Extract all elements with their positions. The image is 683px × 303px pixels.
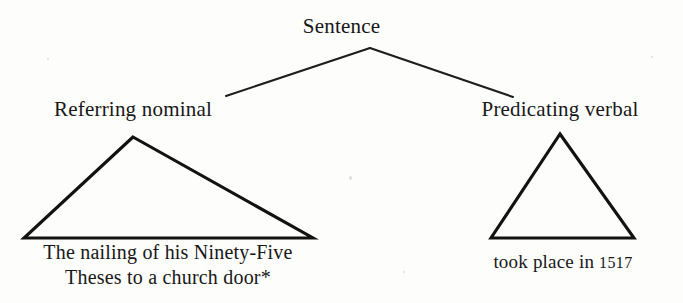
left-terminal-text: The nailing of his Ninety-Five Theses to… xyxy=(0,240,336,290)
left-triangle xyxy=(24,137,313,238)
left-terminal-line-1: The nailing of his Ninety-Five xyxy=(0,240,336,265)
right-terminal-phrase: took place in xyxy=(493,251,599,272)
right-terminal-year: 1517 xyxy=(599,254,633,271)
right-triangle xyxy=(491,134,634,238)
root-node-label: Sentence xyxy=(0,14,683,39)
right-node-label: Predicating verbal xyxy=(407,97,683,122)
branch-line-right xyxy=(370,48,513,97)
right-terminal-text: took place in 1517 xyxy=(432,251,683,273)
left-node-label: Referring nominal xyxy=(0,97,266,122)
branch-line-left xyxy=(226,48,370,96)
left-terminal-line-2: Theses to a church door* xyxy=(0,265,336,290)
